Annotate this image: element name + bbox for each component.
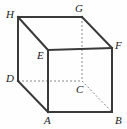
edge-G-F (82, 17, 112, 48)
vertex-label-h: H (6, 9, 14, 20)
cube-svg (0, 0, 127, 129)
vertex-label-c: C (76, 84, 83, 95)
edge-C-B (82, 81, 112, 112)
solid-edge-group (18, 17, 112, 112)
edge-D-A (18, 81, 48, 112)
vertex-label-a: A (44, 115, 51, 126)
edge-H-E (18, 17, 48, 50)
vertex-label-b: B (115, 115, 122, 126)
vertex-label-d: D (6, 73, 14, 84)
cube-figure: HGEFDCAB (0, 0, 127, 129)
edge-E-F (48, 48, 112, 50)
vertex-label-e: E (37, 50, 44, 61)
vertex-label-g: G (75, 3, 83, 14)
vertex-label-f: F (115, 40, 122, 51)
